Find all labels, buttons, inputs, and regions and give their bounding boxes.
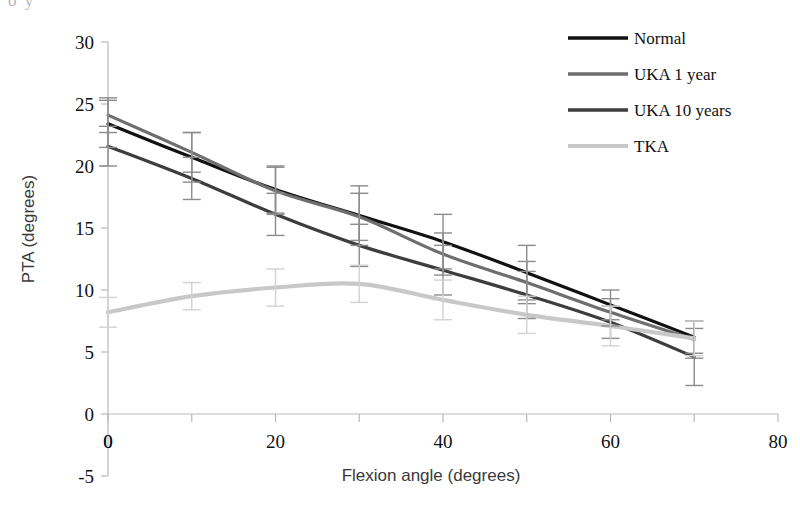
x-axis-tick-label: 80 (769, 431, 788, 452)
legend-item-uka-10-years: UKA 10 years (568, 101, 731, 120)
y-axis-tick-label: 5 (85, 342, 95, 363)
legend-label: UKA 10 years (634, 101, 731, 120)
y-axis-tick-label: 30 (75, 32, 94, 53)
chart-legend: NormalUKA 1 yearUKA 10 yearsTKA (568, 29, 731, 156)
error-bar (183, 157, 201, 199)
origin-label: 0 (103, 431, 113, 452)
x-axis-title: Flexion angle (degrees) (342, 466, 521, 485)
legend-item-tka: TKA (568, 137, 670, 156)
x-axis-tick-label: 40 (434, 431, 453, 452)
y-axis-tick-label: 0 (85, 404, 95, 425)
legend-label: TKA (634, 137, 670, 156)
legend-label: Normal (634, 29, 686, 48)
errorbar-layer (99, 98, 703, 386)
pta-vs-flexion-angle-line-chart: -5051015202530020406080Flexion angle (de… (0, 0, 800, 520)
top-text-fragment: o y (8, 0, 35, 11)
legend-item-normal: Normal (568, 29, 686, 48)
y-axis-tick-label: 20 (75, 156, 94, 177)
x-axis-tick-label: 20 (266, 431, 285, 452)
y-axis-tick-label: 10 (75, 280, 94, 301)
y-axis-tick-label: 15 (75, 218, 94, 239)
x-axis-tick-label: 60 (601, 431, 620, 452)
figure-container: o y -5051015202530020406080Flexion angle… (0, 0, 800, 520)
y-axis-tick-label: -5 (78, 466, 94, 487)
series-layer (108, 115, 694, 357)
y-axis-tick-label: 25 (75, 94, 94, 115)
legend-item-uka-1-year: UKA 1 year (568, 65, 716, 84)
legend-label: UKA 1 year (634, 65, 716, 84)
y-axis-title: PTA (degrees) (19, 175, 38, 283)
